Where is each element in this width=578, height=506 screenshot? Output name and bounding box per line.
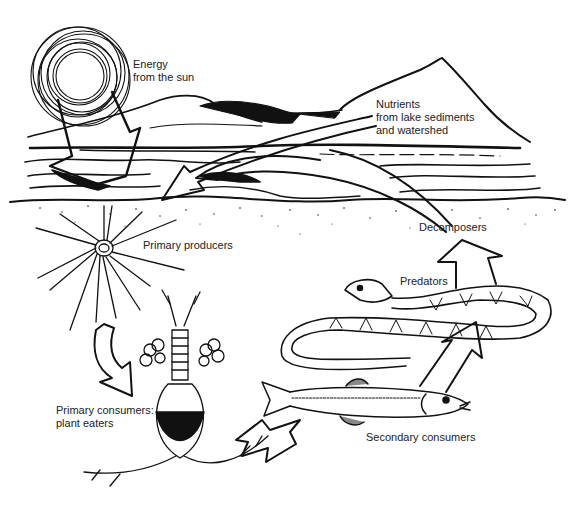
sun-icon xyxy=(31,27,130,126)
primary-consumers-label: Primary consumers: plant eaters xyxy=(56,404,154,430)
producers-label: Primary producers xyxy=(143,239,233,252)
illustration-canvas xyxy=(0,0,578,506)
flow-arrow-icon xyxy=(420,322,482,392)
flow-arrow-icon xyxy=(236,420,300,462)
food-web-diagram: Energy from the sun Nutrients from lake … xyxy=(0,0,578,506)
nutrients-label: Nutrients from lake sediments and waters… xyxy=(376,98,474,137)
nutrients-label-line3: and watershed xyxy=(376,124,474,137)
nutrients-label-line1: Nutrients xyxy=(376,98,474,111)
water-waves-icon xyxy=(10,145,565,202)
fish-icon xyxy=(262,379,470,425)
flow-arrow-icon xyxy=(95,324,132,396)
decomposers-label-line1: Decomposers xyxy=(419,221,487,234)
secondary-consumers-label: Secondary consumers xyxy=(366,431,475,444)
predators-label: Predators xyxy=(400,275,448,288)
primary-consumers-label-line1: Primary consumers: xyxy=(56,404,154,417)
energy-label-line1: Energy xyxy=(133,58,194,71)
decomposers-label: Decomposers xyxy=(419,221,487,234)
predators-label-line1: Predators xyxy=(400,275,448,288)
snake-icon xyxy=(281,280,551,370)
diatom-icon xyxy=(36,206,184,330)
secondary-consumers-label-line1: Secondary consumers xyxy=(366,431,475,444)
energy-arrow-icon xyxy=(50,92,140,184)
primary-consumers-label-line2: plant eaters xyxy=(56,417,154,430)
energy-label-line2: from the sun xyxy=(133,71,194,84)
energy-label: Energy from the sun xyxy=(133,58,194,84)
nutrients-label-line2: from lake sediments xyxy=(376,111,474,124)
producers-label-line1: Primary producers xyxy=(143,239,233,252)
